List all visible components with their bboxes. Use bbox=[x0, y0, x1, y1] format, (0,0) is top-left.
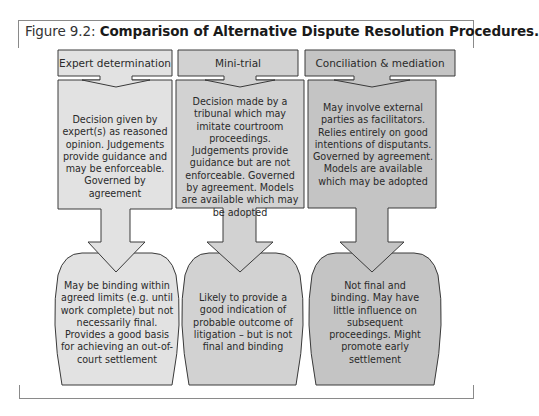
outcome-expert-determination: May be binding within agreed limits (e.g… bbox=[60, 280, 174, 366]
column-header-expert-determination: Expert determination bbox=[58, 50, 172, 76]
outcome-conciliation-mediation: Not final and binding. May have little i… bbox=[326, 280, 424, 366]
column-header-conciliation-mediation: Conciliation & mediation bbox=[305, 50, 455, 76]
column-header-mini-trial: Mini-trial bbox=[178, 50, 298, 76]
description-conciliation-mediation: May involve external parties as facilita… bbox=[312, 102, 434, 188]
outcome-mini-trial: Likely to provide a good indication of p… bbox=[193, 292, 293, 353]
description-expert-determination: Decision given by expert(s) as reasoned … bbox=[62, 114, 168, 200]
description-mini-trial: Decision made by a tribunal which may im… bbox=[180, 96, 300, 219]
